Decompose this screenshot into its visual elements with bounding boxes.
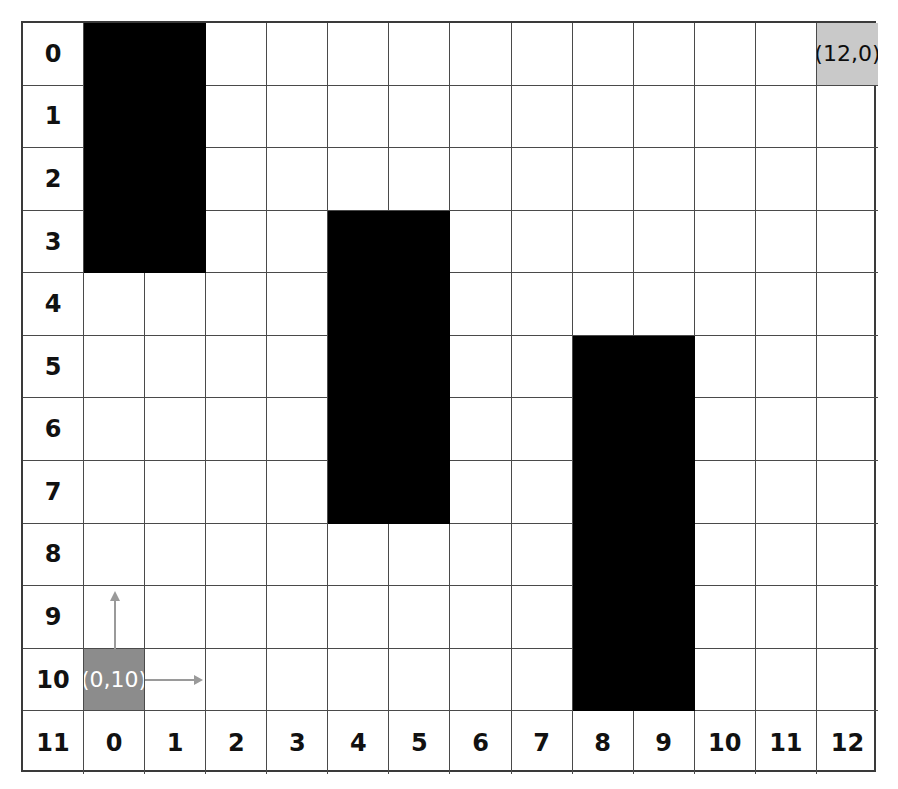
grid-cell[interactable] [267,23,328,86]
grid-cell[interactable] [450,649,511,712]
grid-cell[interactable] [634,86,695,149]
grid-cell[interactable] [817,398,878,461]
grid-cell[interactable] [267,398,328,461]
grid-cell[interactable] [573,86,634,149]
grid-cell[interactable] [389,649,450,712]
grid-cell[interactable] [206,273,267,336]
grid-cell[interactable] [389,586,450,649]
grid-cell[interactable] [450,398,511,461]
grid-cell[interactable] [267,524,328,587]
grid-cell[interactable] [634,23,695,86]
grid-cell[interactable] [206,461,267,524]
grid-cell[interactable] [206,524,267,587]
grid-cell[interactable] [206,398,267,461]
grid-cell[interactable] [756,461,817,524]
grid-cell[interactable] [817,148,878,211]
grid-cell[interactable] [267,649,328,712]
grid-cell[interactable] [389,23,450,86]
grid-cell[interactable] [328,86,389,149]
grid-cell[interactable] [450,211,511,274]
grid-cell[interactable] [450,273,511,336]
grid-cell[interactable] [267,586,328,649]
grid-cell[interactable] [267,211,328,274]
grid-cell[interactable] [695,23,756,86]
grid-cell[interactable] [756,649,817,712]
grid-cell[interactable] [389,524,450,587]
grid-cell[interactable] [450,148,511,211]
grid-cell[interactable] [573,148,634,211]
grid-cell[interactable] [695,586,756,649]
grid-cell[interactable] [573,211,634,274]
grid-cell[interactable] [206,148,267,211]
grid-cell[interactable] [756,273,817,336]
grid-cell[interactable] [145,273,206,336]
grid-cell[interactable] [267,86,328,149]
grid-cell[interactable] [267,148,328,211]
grid-cell[interactable] [84,398,145,461]
grid-cell[interactable] [756,336,817,399]
grid-cell[interactable] [389,148,450,211]
grid-cell[interactable] [573,273,634,336]
grid-cell[interactable] [84,524,145,587]
grid-cell[interactable] [206,23,267,86]
grid-cell[interactable] [695,336,756,399]
grid-cell[interactable] [817,649,878,712]
grid-cell[interactable] [206,649,267,712]
grid-cell[interactable] [512,86,573,149]
grid-cell[interactable] [450,586,511,649]
grid-cell[interactable] [512,148,573,211]
grid-cell[interactable] [328,23,389,86]
grid-cell[interactable] [328,148,389,211]
grid-cell[interactable] [695,649,756,712]
grid-cell[interactable] [328,586,389,649]
grid-cell[interactable] [695,398,756,461]
grid-cell[interactable] [634,211,695,274]
grid-cell[interactable] [817,336,878,399]
grid-cell[interactable] [84,461,145,524]
grid-cell[interactable] [145,524,206,587]
grid-cell[interactable] [328,649,389,712]
grid-cell[interactable] [817,86,878,149]
grid-cell[interactable] [512,398,573,461]
grid-cell[interactable] [512,649,573,712]
grid-cell[interactable] [695,461,756,524]
grid-cell[interactable] [512,211,573,274]
grid-cell[interactable] [145,586,206,649]
grid-cell[interactable] [756,398,817,461]
grid-cell[interactable] [84,273,145,336]
grid-cell[interactable] [512,336,573,399]
grid-cell[interactable] [206,586,267,649]
grid-cell[interactable] [512,586,573,649]
grid-cell[interactable] [756,524,817,587]
grid-cell[interactable] [450,23,511,86]
grid-cell[interactable] [695,273,756,336]
grid-cell[interactable] [756,586,817,649]
occupancy-grid[interactable]: 0(12,0)12345678910(0,10)1101234567891011… [21,21,876,772]
grid-cell[interactable] [267,336,328,399]
grid-cell[interactable] [756,86,817,149]
grid-cell[interactable] [573,23,634,86]
grid-cell[interactable] [817,273,878,336]
grid-cell[interactable] [145,461,206,524]
grid-cell[interactable] [695,148,756,211]
grid-cell[interactable] [267,461,328,524]
grid-cell[interactable] [389,86,450,149]
grid-cell[interactable] [145,398,206,461]
grid-cell[interactable] [450,336,511,399]
origin-marker[interactable]: (0,10) [84,649,145,712]
grid-cell[interactable] [634,273,695,336]
grid-cell[interactable] [756,148,817,211]
grid-cell[interactable] [145,336,206,399]
grid-cell[interactable] [512,23,573,86]
grid-cell[interactable] [817,524,878,587]
grid-cell[interactable] [512,461,573,524]
grid-cell[interactable] [695,86,756,149]
grid-cell[interactable] [328,524,389,587]
grid-cell[interactable] [817,586,878,649]
grid-cell[interactable] [634,148,695,211]
grid-cell[interactable] [450,86,511,149]
grid-cell[interactable] [512,273,573,336]
grid-cell[interactable] [695,211,756,274]
grid-cell[interactable] [817,461,878,524]
goal-marker[interactable]: (12,0) [817,23,878,86]
